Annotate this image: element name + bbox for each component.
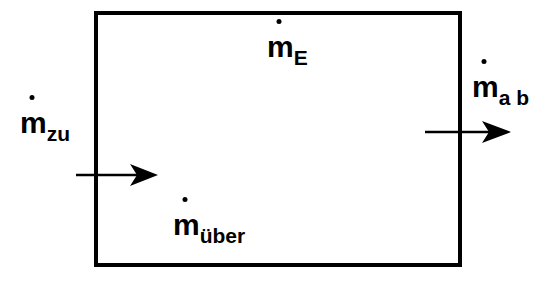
mdot-subscript-e: E <box>294 47 308 68</box>
mdot-subscript-zu: zu <box>47 123 70 144</box>
mdot-base-e: m <box>267 32 294 62</box>
diagram-canvas: m zu m E m a b m über <box>0 0 555 282</box>
label-mass-flow-ab: m a b <box>472 72 529 102</box>
label-mass-flow-e: m E <box>267 32 308 62</box>
mdot-stack-ab: m <box>472 72 499 102</box>
outlet-arrow-head <box>482 121 511 143</box>
mdot-stack-e: m <box>267 32 294 62</box>
mdot-base-ab: m <box>472 72 499 102</box>
overdot-icon-zu <box>30 95 35 100</box>
mdot-subscript-ab: a b <box>499 87 529 108</box>
label-mass-flow-zu: m zu <box>20 108 70 138</box>
overdot-icon-ueber <box>183 197 188 202</box>
label-mass-flow-ueber: m über <box>173 210 245 240</box>
mdot-base-zu: m <box>20 108 47 138</box>
mdot-stack-zu: m <box>20 108 47 138</box>
mdot-stack-ueber: m <box>173 210 200 240</box>
mdot-subscript-ueber: über <box>200 225 246 246</box>
mdot-base-ueber: m <box>173 210 200 240</box>
overdot-icon-ab <box>482 59 487 64</box>
overdot-icon-e <box>277 19 282 24</box>
